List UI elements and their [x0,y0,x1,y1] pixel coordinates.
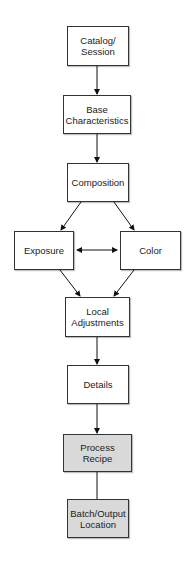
edge-exposure-local [60,270,80,296]
node-color: Color [120,231,181,270]
node-label: Characteristics [66,115,129,126]
node-label: Composition [72,177,125,188]
node-composition: Composition [67,163,129,202]
node-base-characteristics: BaseCharacteristics [63,95,131,134]
node-label: Exposure [24,245,64,256]
node-label: Local [71,306,123,317]
node-label: Base [66,104,129,115]
node-label: Location [70,519,125,530]
node-process-recipe: ProcessRecipe [63,434,132,472]
node-label: Recipe [80,453,114,464]
edge-composition-color [114,202,134,230]
node-label: Color [139,245,162,256]
node-label: Adjustments [71,317,123,328]
node-label: Session [80,46,115,57]
node-batch-output-location: Batch/OutputLocation [67,499,129,538]
node-catalog-session: Catalog/Session [67,26,129,66]
node-exposure: Exposure [14,231,74,270]
node-details: Details [67,365,129,404]
edge-composition-exposure [61,202,81,230]
node-label: Details [83,379,112,390]
node-label: Process [80,442,114,453]
node-local-adjustments: LocalAdjustments [65,297,130,337]
edge-color-local [114,270,134,296]
edges-layer [0,0,191,562]
node-label: Batch/Output [70,508,125,519]
node-label: Catalog/ [80,35,115,46]
